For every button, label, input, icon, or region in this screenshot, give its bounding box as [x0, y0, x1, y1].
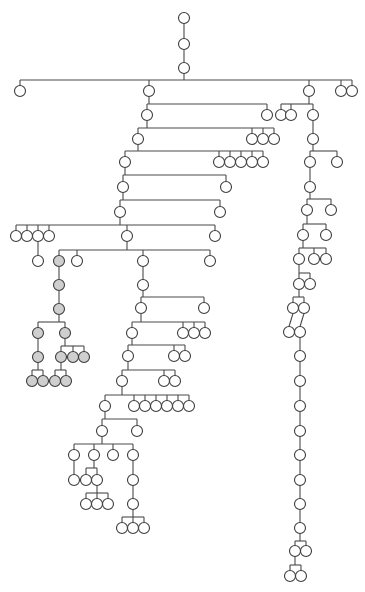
highlighted-node-circle: [33, 328, 44, 339]
node-circle: [89, 450, 100, 461]
node-circle: [118, 182, 129, 193]
node-circle: [347, 86, 358, 97]
highlighted-node-circle: [54, 304, 65, 315]
node-circle: [180, 351, 191, 362]
node-circle: [284, 327, 295, 338]
node-circle: [221, 182, 232, 193]
node-circle: [295, 401, 306, 412]
node-circle: [305, 182, 316, 193]
node-circle: [140, 401, 151, 412]
node-circle: [296, 571, 307, 582]
node-circle: [81, 475, 92, 486]
node-circle: [199, 303, 210, 314]
node-circle: [92, 475, 103, 486]
node-circle: [295, 499, 306, 510]
node-circle: [122, 231, 133, 242]
node-circle: [127, 328, 138, 339]
node-circle: [295, 475, 306, 486]
node-circle: [92, 499, 103, 510]
highlighted-node-circle: [61, 376, 72, 387]
node-circle: [225, 157, 236, 168]
highlighted-node-circle: [60, 328, 71, 339]
node-circle: [117, 376, 128, 387]
node-circle: [128, 523, 139, 534]
node-circle: [11, 231, 22, 242]
node-circle: [295, 351, 306, 362]
node-circle: [295, 450, 306, 461]
node-circle: [304, 86, 315, 97]
node-circle: [295, 426, 306, 437]
node-circle: [151, 401, 162, 412]
node-circle: [169, 351, 180, 362]
highlighted-node-circle: [79, 352, 90, 363]
node-circle: [136, 303, 147, 314]
node-circle: [72, 256, 83, 267]
node-circle: [44, 231, 55, 242]
node-circle: [159, 376, 170, 387]
node-circle: [215, 207, 226, 218]
node-circle: [173, 401, 184, 412]
node-circle: [214, 157, 225, 168]
node-circle: [97, 426, 108, 437]
node-circle: [108, 450, 119, 461]
node-circle: [305, 279, 316, 290]
node-circle: [308, 134, 319, 145]
node-circle: [321, 230, 332, 241]
node-circle: [262, 110, 273, 121]
node-circle: [205, 256, 216, 267]
node-circle: [276, 110, 287, 121]
highlighted-node-circle: [68, 352, 79, 363]
highlighted-node-circle: [54, 256, 65, 267]
tree-edges: [16, 24, 352, 571]
node-circle: [179, 63, 190, 74]
node-circle: [189, 328, 200, 339]
node-circle: [326, 205, 337, 216]
node-circle: [138, 280, 149, 291]
node-circle: [294, 254, 305, 265]
node-circle: [69, 475, 80, 486]
highlighted-node-circle: [33, 352, 44, 363]
node-circle: [302, 205, 313, 216]
node-circle: [285, 571, 296, 582]
node-circle: [290, 546, 301, 557]
node-circle: [305, 157, 316, 168]
tree-edge: [300, 314, 304, 327]
node-circle: [100, 401, 111, 412]
node-circle: [236, 157, 247, 168]
node-circle: [184, 401, 195, 412]
node-circle: [138, 256, 149, 267]
node-circle: [33, 231, 44, 242]
node-circle: [247, 157, 258, 168]
node-circle: [288, 303, 299, 314]
node-circle: [170, 376, 181, 387]
node-circle: [247, 134, 258, 145]
node-circle: [123, 351, 134, 362]
tree-edge: [289, 314, 293, 327]
node-circle: [142, 110, 153, 121]
highlighted-node-circle: [27, 376, 38, 387]
node-circle: [210, 231, 221, 242]
highlighted-node-circle: [38, 376, 49, 387]
node-circle: [258, 157, 269, 168]
node-circle: [128, 450, 139, 461]
node-circle: [33, 256, 44, 267]
node-circle: [308, 110, 319, 121]
node-circle: [129, 401, 140, 412]
node-circle: [295, 523, 306, 534]
node-circle: [301, 546, 312, 557]
node-circle: [115, 207, 126, 218]
tree-svg: [0, 0, 365, 592]
node-circle: [144, 86, 155, 97]
node-circle: [258, 134, 269, 145]
node-circle: [117, 523, 128, 534]
node-circle: [81, 499, 92, 510]
node-circle: [295, 327, 306, 338]
node-circle: [69, 450, 80, 461]
node-circle: [128, 499, 139, 510]
node-circle: [309, 254, 320, 265]
node-circle: [128, 475, 139, 486]
node-circle: [22, 231, 33, 242]
node-circle: [179, 13, 190, 24]
node-circle: [286, 110, 297, 121]
node-circle: [336, 86, 347, 97]
